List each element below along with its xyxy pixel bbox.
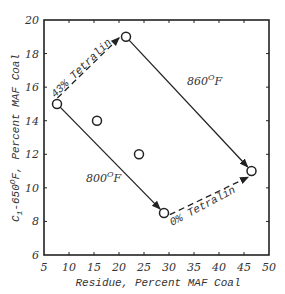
svg-text:C1-650OF, Percent MAF Coal: C1-650OF, Percent MAF Coal — [8, 54, 24, 222]
y-tick-label: 14 — [25, 115, 39, 128]
data-point — [93, 116, 102, 125]
x-tick-label: 50 — [262, 261, 276, 274]
x-tick-label: 45 — [236, 261, 251, 274]
data-point — [122, 32, 131, 41]
x-tick-label: 30 — [162, 261, 176, 274]
data-point — [247, 167, 256, 176]
x-tick-label: 40 — [211, 261, 226, 274]
y-tick-label: 6 — [32, 249, 39, 262]
data-point — [135, 150, 144, 159]
annotation-860F: 860OF — [187, 73, 223, 88]
y-axis-title: C1-650OF, Percent MAF Coal — [8, 54, 24, 222]
annotation-43-tetralin: 43% Tetralin — [49, 36, 114, 100]
x-tick-label: 20 — [111, 261, 126, 274]
plot-frame — [44, 20, 269, 255]
y-axis-ticks: 68101214161820 — [24, 14, 269, 262]
y-tick-label: 18 — [25, 48, 39, 61]
x-tick-label: 10 — [62, 261, 76, 274]
data-point — [53, 99, 62, 108]
x-tick-label: 15 — [87, 261, 101, 274]
x-tick-label: 5 — [41, 261, 48, 274]
x-axis-title: Residue, Percent MAF Coal — [75, 277, 240, 289]
annotations: 43% Tetralin0% Tetralin800OF860OF — [49, 36, 238, 228]
x-axis-ticks: 5101520253035404550 — [41, 20, 277, 274]
x-tick-label: 35 — [187, 261, 201, 274]
y-tick-label: 16 — [25, 81, 39, 94]
solid-arrow — [60, 107, 160, 209]
y-tick-label: 10 — [25, 182, 39, 195]
solid-arrow — [129, 40, 248, 167]
y-tick-label: 8 — [32, 215, 39, 228]
data-point — [160, 209, 169, 218]
annotation-800F: 800OF — [86, 170, 122, 185]
y-tick-label: 12 — [25, 148, 39, 161]
y-tick-label: 20 — [24, 14, 39, 27]
x-tick-label: 25 — [136, 261, 151, 274]
chart: 5101520253035404550 68101214161820 43% T… — [0, 0, 285, 294]
annotation-0-tetralin: 0% Tetralin — [168, 184, 238, 229]
